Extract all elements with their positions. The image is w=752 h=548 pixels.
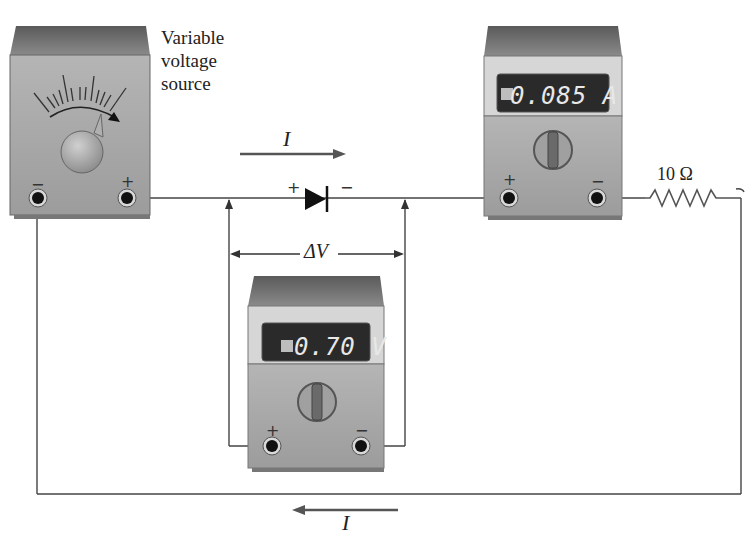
current-label-bottom: I	[342, 510, 349, 536]
source-pos-sign: +	[121, 172, 134, 191]
diode-symbol	[305, 186, 327, 212]
wires	[37, 198, 741, 494]
ammeter-neg-sign: −	[591, 172, 604, 191]
source-neg-sign: −	[31, 175, 44, 194]
resistor-label: 10 Ω	[657, 164, 693, 185]
voltmeter-reading: 0.70 V	[294, 333, 387, 361]
diode-plus-sign: +	[287, 178, 300, 197]
current-label-top: I	[283, 126, 290, 152]
ammeter-pos-sign: +	[503, 170, 516, 189]
dial-knob	[61, 131, 103, 173]
resistor-symbol	[645, 190, 720, 206]
voltage-source-label: Variable voltage source	[161, 26, 251, 95]
voltmeter-neg-sign: −	[355, 421, 368, 440]
current-arrow-top	[240, 149, 346, 159]
voltmeter-pos-sign: +	[266, 421, 279, 440]
delta-v-label: ΔV	[302, 240, 330, 263]
ammeter-reading: 0.085 A	[510, 82, 618, 110]
voltmeter	[248, 276, 384, 472]
diode-minus-sign: −	[340, 178, 353, 197]
circuit-graphics	[0, 0, 752, 548]
circuit-figure: Variable voltage source − + 0.085 A + − …	[0, 0, 752, 548]
